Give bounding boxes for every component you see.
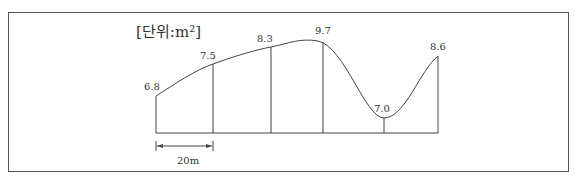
value-label-5: 7.0 (374, 103, 390, 114)
unit-label: [단위:m²] (136, 23, 201, 41)
value-label-1: 6.8 (144, 81, 160, 92)
value-label-2: 7.5 (200, 50, 216, 61)
value-label-4: 9.7 (315, 25, 331, 36)
value-label-3: 8.3 (257, 33, 273, 44)
scale-label: 20m (177, 155, 200, 166)
cross-section-diagram: [단위:m²] 6.8 7.5 8.3 9.7 7.0 8.6 20m (0, 0, 576, 182)
arrow-right-icon (206, 144, 212, 148)
profile-curve (156, 40, 438, 118)
arrow-left-icon (157, 144, 163, 148)
value-label-6: 8.6 (430, 41, 446, 52)
